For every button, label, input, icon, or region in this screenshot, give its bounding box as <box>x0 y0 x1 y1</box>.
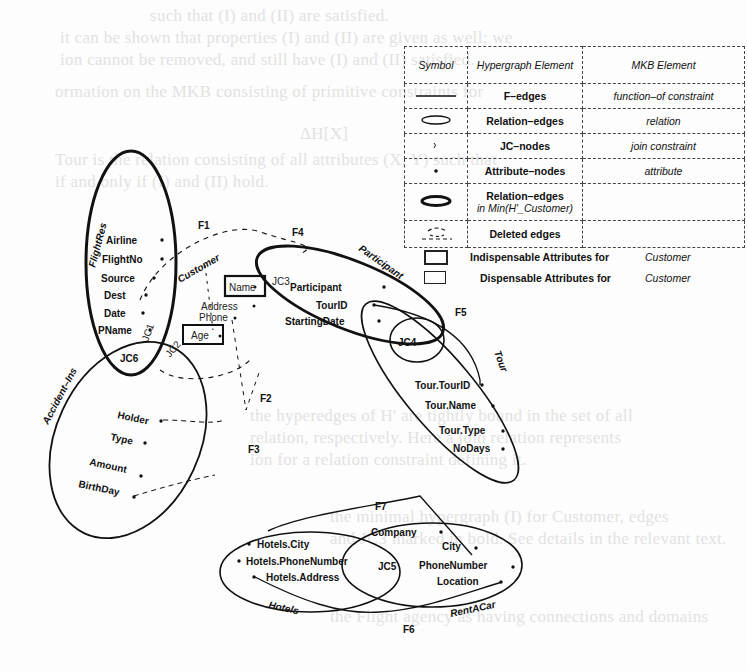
relation-label-rentacar: RentACar <box>449 598 497 619</box>
attr-phone: Phone <box>199 312 228 323</box>
f5-label: F5 <box>455 307 467 318</box>
attr-tour-tourid: Tour.TourID <box>415 380 470 391</box>
f7-label: F7 <box>375 501 387 512</box>
attr-airline: Airline <box>106 235 138 246</box>
customer-edge-deleted <box>140 229 307 300</box>
attr-type: Type <box>110 431 135 447</box>
participant-edge <box>245 226 456 364</box>
attr-flightno: FlightNo <box>102 254 143 265</box>
attr-address: Address <box>201 301 238 312</box>
f2-edge-deleted <box>232 320 260 410</box>
attr-source: Source <box>101 273 135 284</box>
relation-label-customer: Customer <box>176 251 223 284</box>
attr-tourid: TourID <box>316 300 347 311</box>
attr-location: Location <box>437 576 479 587</box>
f6-label: F6 <box>403 624 415 635</box>
attr-age: Age <box>191 330 209 341</box>
attr-date: Date <box>104 308 126 319</box>
attr-name: Name <box>229 282 256 293</box>
relation-label-tour: Tour <box>492 349 510 374</box>
f1-label: F1 <box>198 220 210 231</box>
relation-label-hotels: Hotels <box>268 599 301 616</box>
f2-label: F2 <box>260 393 272 404</box>
jc2-label: JC2 <box>163 338 183 359</box>
hypergraph-figure: such that (I) and (II) are satisfied. it… <box>0 0 747 671</box>
jc3-label: JC3 <box>272 276 290 287</box>
attr-tour-type: Tour.Type <box>439 425 486 436</box>
jc1-label: JC1 <box>140 322 157 343</box>
attr-tour-name: Tour.Name <box>425 400 476 411</box>
jc4-label: JC4 <box>398 337 417 348</box>
attr-city: City <box>442 541 461 552</box>
jc5-label: JC5 <box>378 561 397 572</box>
attr-birthday: BirthDay <box>78 478 121 498</box>
attr-amount: Amount <box>89 456 129 475</box>
attr-hotels-address: Hotels.Address <box>266 572 340 583</box>
attr-participant: Participant <box>290 282 342 293</box>
attr-hotels-city: Hotels.City <box>257 539 310 550</box>
attr-startingdate: StartingDate <box>285 316 345 327</box>
attr-dest: Dest <box>104 290 126 301</box>
relation-label-participant: Participant <box>357 243 406 282</box>
attr-phonenumber: PhoneNumber <box>419 560 487 571</box>
attr-hotels-phonenumber: Hotels.PhoneNumber <box>246 556 348 567</box>
attr-nodays: NoDays <box>453 443 491 454</box>
jc6-label: JC6 <box>120 353 139 364</box>
f4-label: F4 <box>292 227 304 238</box>
hypergraph-canvas: Airline FlightNo Source Dest Date PName … <box>0 0 747 671</box>
attr-pname: PName <box>98 325 132 336</box>
attr-holder: Holder <box>117 409 150 426</box>
f3-label: F3 <box>248 444 260 455</box>
attr-company: Company <box>371 527 417 538</box>
